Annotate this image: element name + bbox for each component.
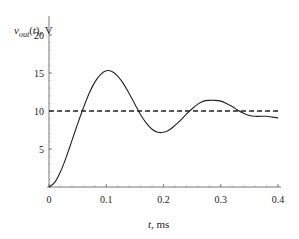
x-tick-label: 0.4 — [272, 194, 285, 205]
x-tick-label: 0.1 — [100, 194, 113, 205]
series — [49, 70, 278, 187]
x-tick-label: 0.3 — [215, 194, 228, 205]
y-tick-label: 15 — [34, 68, 44, 79]
x-axis-label: t, ms — [148, 218, 169, 230]
y-tick-label: 10 — [34, 106, 44, 117]
x-tick-label: 0.2 — [157, 194, 170, 205]
x-tick-label: 0 — [47, 194, 52, 205]
ticks: 00.10.20.30.45101520 — [34, 30, 284, 206]
vout-curve — [49, 70, 278, 187]
chart: 00.10.20.30.45101520 vout(t), V t, ms — [0, 0, 299, 239]
axes — [47, 16, 281, 187]
y-tick-label: 5 — [39, 144, 44, 155]
